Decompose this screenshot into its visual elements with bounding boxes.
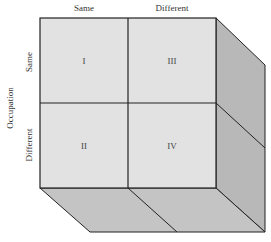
cube-diagram: I II III IV [0,0,271,242]
cell-label-II: II [81,141,87,151]
cell-label-IV: IV [167,141,177,151]
cell-label-III: III [168,56,177,66]
cell-label-I: I [83,56,86,66]
